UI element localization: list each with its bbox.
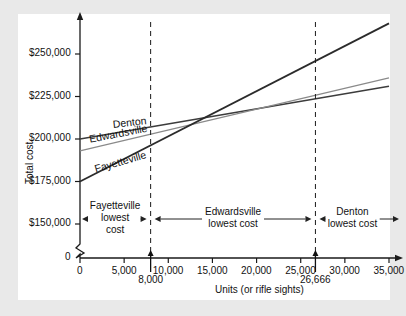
region-label-2: Dentonlowest cost bbox=[328, 206, 377, 230]
y-tick-label-2: $200,000 bbox=[29, 132, 71, 143]
y-origin-label: 0 bbox=[65, 251, 71, 262]
region-label-1: Edwardsvillelowest cost bbox=[205, 206, 261, 230]
x-axis-title: Units (or rifle sights) bbox=[215, 284, 304, 295]
y-tick-label-0: $150,000 bbox=[29, 217, 71, 228]
x-tick-label-7: 35,000 bbox=[374, 265, 405, 276]
vline-callout-1: 26,666 bbox=[300, 274, 331, 285]
y-tick-label-4: $250,000 bbox=[29, 47, 71, 58]
x-tick-label-1: 5,000 bbox=[112, 265, 137, 276]
x-tick-label-3: 15,000 bbox=[197, 265, 228, 276]
vline-callout-0: 8,000 bbox=[138, 274, 163, 285]
x-tick-label-4: 20,000 bbox=[241, 265, 272, 276]
x-tick-label-0: 0 bbox=[77, 265, 83, 276]
chart-screenshot: Total cost Units (or rifle sights) $150,… bbox=[0, 0, 406, 316]
y-tick-label-1: $175,000 bbox=[29, 175, 71, 186]
series-line-edwardsville bbox=[80, 78, 389, 151]
region-label-0: Fayettevillelowestcost bbox=[90, 200, 141, 236]
y-tick-label-3: $225,000 bbox=[29, 90, 71, 101]
x-tick-label-6: 30,000 bbox=[329, 265, 360, 276]
